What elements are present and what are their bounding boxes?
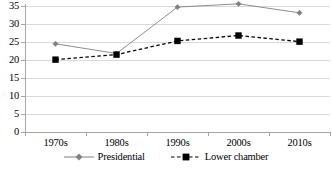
data-point-marker [174,38,180,44]
chart-legend: Presidential Lower chamber [0,151,332,162]
legend-item-lower-chamber: Lower chamber [171,151,269,162]
line-chart: 05101520253035 1970s1980s1990s2000s2010s… [0,0,332,172]
data-point-marker [53,41,58,46]
legend-label-lower-chamber: Lower chamber [205,151,269,162]
data-point-marker [236,1,241,6]
data-point-marker [235,32,241,38]
data-point-marker [52,56,58,62]
data-point-marker [296,38,302,44]
legend-swatch-presidential-line-icon [64,152,94,162]
data-point-marker [297,10,302,15]
series-line-presidential [56,4,300,54]
legend-swatch-lower-chamber-line-icon [171,152,201,162]
legend-label-presidential: Presidential [98,151,145,162]
data-series-layer [0,0,332,172]
data-point-marker [113,51,119,57]
legend-item-presidential: Presidential [64,151,145,162]
